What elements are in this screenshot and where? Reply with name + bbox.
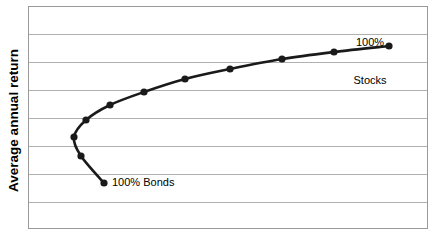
data-point-marker (70, 133, 77, 140)
data-point-marker (106, 101, 113, 108)
data-point-marker (226, 65, 233, 72)
data-point-marker (82, 116, 89, 123)
stocks-endpoint-label: 100% Stocks (330, 11, 410, 111)
data-point-marker (77, 152, 84, 159)
bonds-endpoint-label: 100% Bonds (112, 176, 202, 189)
chart-page: Average annual return 100% Stocks 100% B… (0, 0, 436, 241)
data-point-marker (100, 179, 107, 186)
data-point-marker (181, 75, 188, 82)
stocks-label-line1: 100% (330, 36, 410, 49)
stocks-label-line2: Stocks (330, 74, 410, 87)
data-point-marker (140, 88, 147, 95)
data-point-marker (278, 55, 285, 62)
